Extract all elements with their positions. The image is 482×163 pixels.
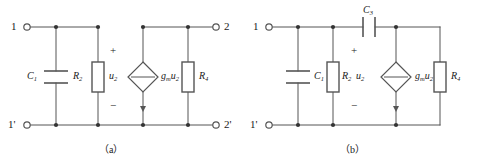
caption-b: （b）	[340, 141, 365, 156]
capacitor-c1-b	[286, 71, 310, 83]
capacitor-c1-label-b: C1	[314, 71, 324, 81]
resistor-r4-label-b: R4	[451, 71, 460, 81]
capacitor-c1-label-a: C1	[27, 71, 37, 81]
capacitor-c3-b	[363, 17, 375, 37]
caption-a: （a）	[99, 141, 123, 156]
resistor-r4-a	[182, 62, 194, 92]
terminal-label-1-b: 1	[253, 21, 259, 32]
resistor-r2-b	[327, 62, 339, 92]
capacitor-c1-a	[44, 71, 68, 83]
circuit-diagram-b: 1 1' C3 C1 R2 u2 + − gmu2 R4 （b）	[241, 0, 482, 163]
terminal-label-2-a: 2	[224, 21, 230, 32]
voltage-u2-label-b: u2	[356, 71, 364, 81]
polarity-plus-b: +	[351, 45, 357, 56]
polarity-plus-a: +	[110, 45, 116, 56]
resistor-r4-label-a: R4	[199, 71, 208, 81]
terminal-label-2prime-a: 2'	[224, 119, 231, 130]
circuit-diagram-a: 1 1' 2 2' C1 R2 u2 + − gmu2 R4 （a）	[0, 0, 241, 163]
polarity-minus-a: −	[110, 100, 116, 111]
capacitor-c3-label-b: C3	[363, 5, 373, 15]
terminal-label-1-a: 1	[11, 21, 17, 32]
dependent-source-label-b: gmu2	[415, 71, 433, 81]
resistor-r2-label-b: R2	[342, 71, 351, 81]
resistor-r2-a	[92, 62, 104, 92]
polarity-minus-b: −	[351, 100, 357, 111]
terminal-label-1prime-b: 1'	[250, 119, 257, 130]
terminal-nodes-b	[266, 24, 272, 128]
resistor-r2-label-a: R2	[73, 71, 82, 81]
voltage-u2-label-a: u2	[109, 71, 117, 81]
figure-root: 1 1' 2 2' C1 R2 u2 + − gmu2 R4 （a）	[0, 0, 482, 163]
resistor-r4-b	[434, 62, 446, 92]
terminal-label-1prime-a: 1'	[8, 119, 15, 130]
dependent-source-label-a: gmu2	[161, 71, 179, 81]
